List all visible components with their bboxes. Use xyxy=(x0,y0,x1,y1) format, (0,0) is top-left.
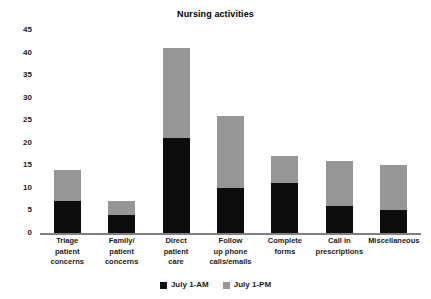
bar-stack xyxy=(326,161,353,233)
y-axis-tick-40: 40 xyxy=(2,49,32,57)
bar-column[interactable] xyxy=(326,30,353,233)
bar-segment-july-1-am[interactable] xyxy=(163,138,190,233)
chart-legend: July 1-AMJuly 1-PM xyxy=(0,281,431,289)
y-axis-tick-5: 5 xyxy=(2,206,32,214)
legend-swatch-icon xyxy=(160,282,167,289)
bar-segment-july-1-pm[interactable] xyxy=(108,201,135,215)
bar-column[interactable] xyxy=(217,30,244,233)
bar-segment-july-1-pm[interactable] xyxy=(163,48,190,138)
bar-segment-july-1-am[interactable] xyxy=(326,206,353,233)
bar-column[interactable] xyxy=(54,30,81,233)
bar-segment-july-1-am[interactable] xyxy=(380,210,407,233)
bar-segment-july-1-am[interactable] xyxy=(108,215,135,233)
bar-stack xyxy=(380,165,407,233)
bar-segment-july-1-pm[interactable] xyxy=(217,116,244,188)
bar-stack xyxy=(108,201,135,233)
bar-segment-july-1-pm[interactable] xyxy=(54,170,81,202)
x-axis-line xyxy=(40,233,421,235)
bar-segment-july-1-am[interactable] xyxy=(54,201,81,233)
bar-segment-july-1-am[interactable] xyxy=(271,183,298,233)
bar-stack xyxy=(163,48,190,233)
bar-column[interactable] xyxy=(271,30,298,233)
y-axis-tick-10: 10 xyxy=(2,184,32,192)
bar-segment-july-1-pm[interactable] xyxy=(271,156,298,183)
bar-stack xyxy=(217,116,244,233)
y-axis-tick-35: 35 xyxy=(2,71,32,79)
plot-area xyxy=(40,30,421,233)
y-axis-tick-0: 0 xyxy=(2,229,32,237)
bar-stack xyxy=(54,170,81,233)
bar-stack xyxy=(271,156,298,233)
nursing-activities-chart: Nursing activities 051015202530354045 Tr… xyxy=(0,0,431,299)
chart-title: Nursing activities xyxy=(0,9,431,19)
y-axis-tick-20: 20 xyxy=(2,139,32,147)
legend-item[interactable]: July 1-AM xyxy=(160,281,209,289)
bar-segment-july-1-pm[interactable] xyxy=(380,165,407,210)
bar-column[interactable] xyxy=(380,30,407,233)
y-axis-tick-30: 30 xyxy=(2,94,32,102)
legend-label: July 1-AM xyxy=(171,281,209,289)
bar-segment-july-1-am[interactable] xyxy=(217,188,244,233)
y-axis-tick-15: 15 xyxy=(2,161,32,169)
legend-item[interactable]: July 1-PM xyxy=(223,281,271,289)
legend-swatch-icon xyxy=(223,282,230,289)
y-axis-tick-45: 45 xyxy=(2,26,32,34)
y-axis: 051015202530354045 xyxy=(0,30,36,233)
bar-segment-july-1-pm[interactable] xyxy=(326,161,353,206)
bar-column[interactable] xyxy=(108,30,135,233)
y-axis-tick-25: 25 xyxy=(2,116,32,124)
x-axis-label: Miscellaneous xyxy=(361,236,427,247)
bar-column[interactable] xyxy=(163,30,190,233)
x-axis: Triage patient concernsFamily/ patient c… xyxy=(40,236,421,276)
legend-label: July 1-PM xyxy=(234,281,271,289)
